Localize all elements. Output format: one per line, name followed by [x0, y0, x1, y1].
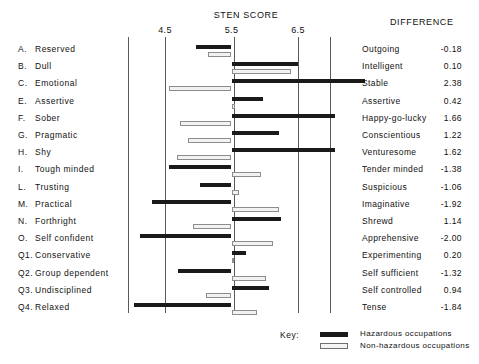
row-label-right-pole: Assertive [362, 96, 401, 106]
factor-code: I. [18, 164, 35, 174]
difference-value: -1.84 [410, 302, 462, 312]
difference-value: 0.94 [410, 285, 462, 295]
row-label-left-pole: L.Trusting [18, 182, 122, 192]
row-label-left-pole: M.Practical [18, 199, 122, 209]
difference-value: -1.38 [410, 164, 462, 174]
legend-swatch-nonhazardous [320, 343, 348, 349]
difference-value: 0.42 [410, 96, 462, 106]
row-label-left-pole: Q2.Group dependent [18, 268, 122, 278]
factor-code: M. [18, 199, 35, 209]
left-pole-text: Practical [35, 199, 72, 209]
x-tick-6.5: 6.5 [278, 25, 318, 35]
row-label-left-pole: Q4.Relaxed [18, 302, 122, 312]
x-tick-4.5: 4.5 [145, 25, 185, 35]
difference-value: -1.92 [410, 199, 462, 209]
row-label-left-pole: C.Emotional [18, 78, 122, 88]
bar-hazardous-occupations [178, 269, 231, 273]
factor-code: L. [18, 182, 35, 192]
column-header-difference: DIFFERENCE [390, 17, 454, 27]
row-label-left-pole: G.Pragmatic [18, 130, 122, 140]
left-pole-text: Reserved [35, 44, 75, 54]
left-pole-text: Pragmatic [35, 130, 78, 140]
row-label-left-pole: O.Self confident [18, 233, 122, 243]
difference-value: 0.10 [410, 61, 462, 71]
row-label-left-pole: H.Shy [18, 147, 122, 157]
difference-value: 1.22 [410, 130, 462, 140]
row-label-right-pole: Shrewd [362, 216, 393, 226]
bar-hazardous-occupations [200, 183, 232, 187]
difference-value: 1.14 [410, 216, 462, 226]
factor-code: G. [18, 130, 35, 140]
row-label-left-pole: Q1.Conservative [18, 250, 122, 260]
bar-hazardous-occupations [232, 148, 336, 152]
bar-hazardous-occupations [140, 234, 232, 238]
difference-value: 1.62 [410, 147, 462, 157]
left-pole-text: Emotional [35, 78, 77, 88]
x-tick-5.5: 5.5 [212, 25, 252, 35]
row-label-left-pole: B.Dull [18, 61, 122, 71]
left-pole-text: Assertive [35, 96, 74, 106]
left-pole-text: Dull [35, 61, 52, 71]
difference-value: -0.18 [410, 44, 462, 54]
bar-hazardous-occupations [232, 97, 264, 101]
row-label-right-pole: Stable [362, 78, 389, 88]
factor-code: Q1. [18, 250, 35, 260]
legend-title: Key: [280, 330, 299, 340]
left-pole-text: Trusting [35, 182, 69, 192]
factor-code: F. [18, 113, 35, 123]
factor-code: C. [18, 78, 35, 88]
row-label-left-pole: A.Reserved [18, 44, 122, 54]
bar-hazardous-occupations [232, 114, 336, 118]
row-label-right-pole: Tense [362, 302, 387, 312]
factor-code: Q2. [18, 268, 35, 278]
difference-value: 1.66 [410, 113, 462, 123]
row-label-left-pole: I.Tough minded [18, 164, 122, 174]
bar-hazardous-occupations [232, 217, 281, 221]
bar-hazardous-occupations [152, 200, 232, 204]
row-label-left-pole: E.Assertive [18, 96, 122, 106]
row-label-left-pole: Q3.Undisciplined [18, 285, 122, 295]
left-pole-text: Shy [35, 147, 51, 157]
row-label-right-pole: Intelligent [362, 61, 403, 71]
legend-swatch-hazardous [320, 332, 348, 337]
left-pole-text: Group dependent [35, 268, 109, 278]
row-label-right-pole: Suspicious [362, 182, 407, 192]
difference-value: -2.00 [410, 233, 462, 243]
sten-score-profile-chart: STEN SCORE DIFFERENCE 4.55.56.5 A.Reserv… [0, 0, 479, 364]
row-label-right-pole: Imaginative [362, 199, 410, 209]
left-pole-text: Forthright [35, 216, 76, 226]
left-pole-text: Self confident [35, 233, 94, 243]
left-pole-text: Undisciplined [35, 285, 92, 295]
bar-hazardous-occupations [196, 45, 232, 49]
difference-value: 0.20 [410, 250, 462, 260]
factor-code: N. [18, 216, 35, 226]
bar-hazardous-occupations [232, 286, 269, 290]
legend-label-hazardous: Hazardous occupations [360, 329, 452, 338]
difference-value: 2.38 [410, 78, 462, 88]
chart-title-sten-score: STEN SCORE [196, 10, 296, 20]
factor-code: E. [18, 96, 35, 106]
left-pole-text: Sober [35, 113, 60, 123]
row-label-right-pole: Outgoing [362, 44, 400, 54]
factor-code: B. [18, 61, 35, 71]
factor-code: Q4. [18, 302, 35, 312]
row-label-right-pole: Venturesome [362, 147, 417, 157]
bar-hazardous-occupations [232, 79, 365, 83]
left-pole-text: Relaxed [35, 302, 70, 312]
bar-hazardous-occupations [232, 251, 247, 255]
row-label-left-pole: F.Sober [18, 113, 122, 123]
difference-value: -1.32 [410, 268, 462, 278]
left-pole-text: Conservative [35, 250, 91, 260]
difference-value: -1.06 [410, 182, 462, 192]
factor-code: O. [18, 233, 35, 243]
factor-code: Q3. [18, 285, 35, 295]
row-label-left-pole: N.Forthright [18, 216, 122, 226]
factor-code: H. [18, 147, 35, 157]
bar-nonhazardous-occupations [232, 310, 257, 315]
bar-hazardous-occupations [232, 62, 299, 66]
factor-code: A. [18, 44, 35, 54]
legend-label-nonhazardous: Non-hazardous occupations [360, 341, 470, 350]
bar-hazardous-occupations [134, 303, 231, 307]
bar-hazardous-occupations [232, 131, 280, 135]
bar-hazardous-occupations [169, 165, 232, 169]
